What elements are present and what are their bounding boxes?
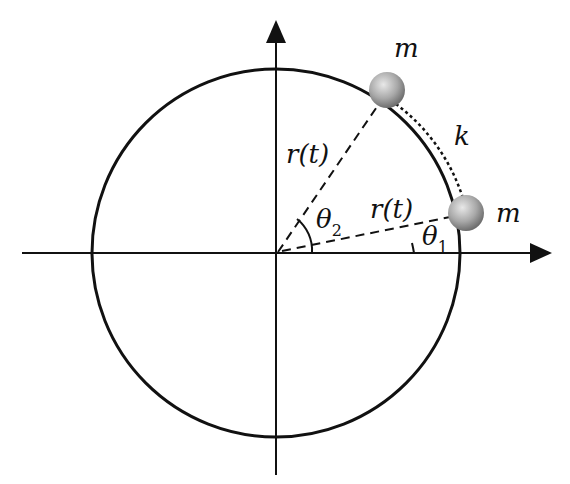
mass-top (369, 72, 405, 108)
diagram-canvas: m m k r(t) r(t) θ2 θ1 (0, 0, 570, 484)
label-spring: k (454, 121, 470, 151)
theta1-arc (412, 243, 414, 253)
y-axis (266, 20, 286, 475)
label-mass-top: m (394, 33, 419, 63)
label-theta1: θ1 (422, 221, 448, 257)
label-mass-right: m (496, 198, 521, 228)
label-radius-upper: r(t) (286, 139, 329, 169)
x-axis-arrow-icon (530, 243, 552, 263)
x-axis (22, 243, 552, 263)
label-radius-lower: r(t) (370, 194, 413, 224)
label-theta2: θ2 (316, 204, 342, 240)
y-axis-arrow-icon (266, 20, 286, 43)
mass-right (448, 195, 484, 231)
